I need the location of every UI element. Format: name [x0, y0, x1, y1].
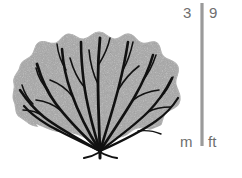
scale-unit-imperial-label: ft	[208, 134, 216, 149]
scale-bar-line	[196, 0, 208, 178]
scale-top-metric-label: 3	[183, 5, 191, 20]
scale-unit-metric-label: m	[180, 134, 193, 149]
scale-top-imperial-label: 9	[209, 5, 217, 20]
figure-canvas: 3 9 m ft	[0, 0, 242, 178]
